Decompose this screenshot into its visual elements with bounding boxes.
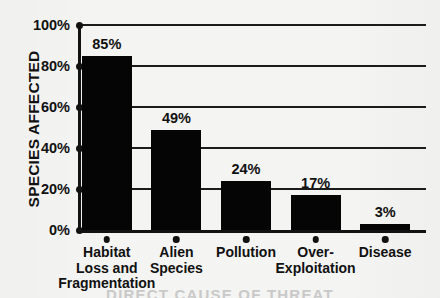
x-axis-title: DIRECT CAUSE OF THREAT [0,286,440,298]
x-category-label: Disease [359,245,412,261]
bar [151,130,201,230]
bar-value-label: 85% [92,36,121,52]
bar-chart-figure: SPECIES AFFECTED 0%20%40%60%80%100%85%Ha… [0,0,440,298]
y-tick-label: 80% [41,58,70,74]
x-tick-dot [243,236,250,243]
y-tick-dot [76,22,83,29]
x-category-label: Over- Exploitation [276,245,356,276]
y-tick-label: 0% [49,222,70,238]
y-tick-label: 40% [41,140,70,156]
y-tick-label: 100% [33,17,70,33]
bar-value-label: 24% [231,161,260,177]
y-tick-label: 20% [41,181,70,197]
bar [360,224,410,230]
plot-area: 0%20%40%60%80%100%85%Habitat Loss and Fr… [78,23,426,232]
x-category-label: Habitat Loss and Fragmentation [58,245,155,292]
bar [221,181,271,230]
bar-value-label: 3% [375,204,396,220]
x-tick-dot [382,236,389,243]
x-category-label: Pollution [216,245,276,261]
x-tick-dot [312,236,319,243]
bar-value-label: 49% [162,110,191,126]
bar [82,56,132,230]
y-axis-line [78,23,81,232]
x-tick-dot [104,236,111,243]
y-tick-label: 60% [41,99,70,115]
gridline-100% [78,24,426,26]
x-category-label: Alien Species [150,245,203,276]
y-axis-title: SPECIES AFFECTED [25,19,43,239]
x-tick-dot [173,236,180,243]
x-axis-line [78,230,426,233]
bar [291,195,341,230]
bar-value-label: 17% [301,175,330,191]
